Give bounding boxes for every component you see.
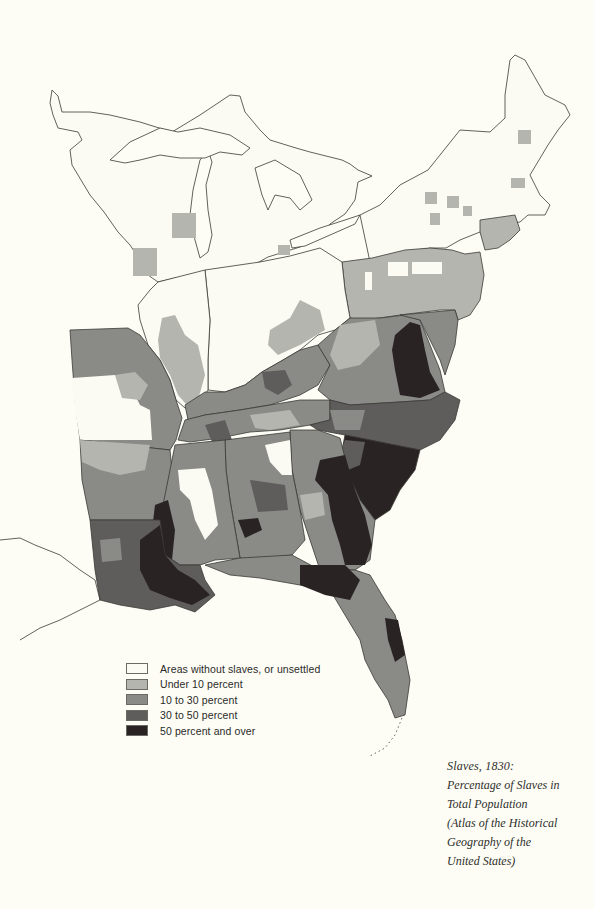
county-patch [365, 272, 372, 290]
county-patch [278, 245, 290, 255]
county-patch [425, 192, 437, 204]
legend-swatch [126, 694, 148, 705]
legend-item-under-10: Under 10 percent [126, 677, 320, 693]
county-patch [430, 213, 440, 225]
legend-swatch [126, 679, 148, 690]
county-patch [518, 130, 531, 144]
caption-subtitle-line: Total Population [447, 795, 560, 814]
legend-label: Under 10 percent [160, 678, 243, 690]
texas-coastline [0, 538, 100, 640]
region-pennsylvania-nj [342, 248, 484, 320]
legend-item-30-50: 30 to 50 percent [126, 708, 320, 724]
county-patch [447, 196, 459, 208]
county-patch [412, 262, 442, 274]
legend-label: 10 to 30 percent [160, 694, 238, 706]
legend-item-none: Areas without slaves, or unsettled [126, 661, 320, 677]
county-patch [133, 248, 157, 276]
legend-swatch [126, 663, 148, 674]
county-patch [511, 178, 525, 188]
caption-source-line: (Atlas of the Historical [447, 814, 560, 833]
legend-swatch [126, 725, 148, 736]
florida-keys [370, 718, 402, 756]
caption-source-line: United States) [447, 852, 560, 871]
caption-subtitle-line: Percentage of Slaves in [447, 776, 560, 795]
nc-light [330, 410, 365, 430]
legend: Areas without slaves, or unsettled Under… [126, 661, 320, 739]
caption-title: Slaves, 1830: [447, 757, 560, 776]
legend-item-50-plus: 50 percent and over [126, 723, 320, 739]
legend-label: 50 percent and over [160, 725, 255, 737]
county-patch [172, 213, 196, 238]
legend-label: Areas without slaves, or unsettled [160, 663, 320, 675]
region-northeast [360, 55, 570, 262]
legend-label: 30 to 50 percent [160, 709, 238, 721]
caption-source-line: Geography of the [447, 833, 560, 852]
legend-item-10-30: 10 to 30 percent [126, 692, 320, 708]
connecticut-rhode-island [480, 215, 520, 250]
county-patch [463, 206, 472, 216]
legend-swatch [126, 710, 148, 721]
map-caption: Slaves, 1830: Percentage of Slaves in To… [447, 757, 560, 871]
louisiana-light [100, 538, 122, 562]
county-patch [388, 262, 408, 276]
